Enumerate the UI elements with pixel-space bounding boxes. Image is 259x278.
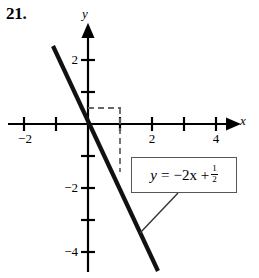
fraction-numerator: 1 (211, 164, 218, 173)
equation-lhs: y (150, 167, 157, 184)
y-axis (81, 36, 95, 272)
fraction-denominator: 2 (211, 174, 218, 184)
x-tick-label-4: 4 (208, 131, 224, 147)
y-tick-label--2: −2 (54, 180, 78, 196)
y-axis-label: y (82, 6, 88, 22)
x-tick-label-2: 2 (144, 131, 160, 147)
equation-text: y = −2x + 1 2 (132, 158, 236, 192)
slope-triangle-dashed (88, 108, 121, 172)
equation-equals: = (161, 167, 169, 184)
x-axis-label: x (240, 113, 246, 129)
equation-callout-box: y = −2x + 1 2 (131, 157, 237, 193)
callout-leader-line (140, 193, 178, 233)
x-axis (8, 117, 228, 131)
equation-rhs-linear: −2x + (173, 167, 209, 184)
x-tick-label--2: −2 (14, 131, 36, 147)
equation-fraction: 1 2 (211, 164, 218, 184)
y-tick-label-2: 2 (62, 52, 78, 68)
y-tick-label--4: −4 (54, 244, 78, 260)
graph-figure: 21. (0, 0, 259, 278)
